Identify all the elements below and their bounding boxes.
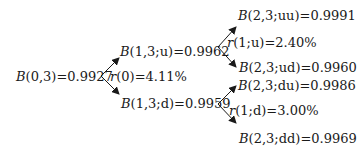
node-symbol: B: [121, 96, 131, 111]
node-symbol: B: [239, 131, 249, 146]
root-node: B(0,3)=0.9927: [16, 69, 113, 84]
node-args: (2,3;uu): [248, 8, 300, 23]
node-args: (0,3): [26, 69, 57, 84]
node-2-du: B(2,3;du)=0.9986: [238, 78, 356, 93]
node-args: (2,3;ud): [249, 60, 301, 75]
rate-args: (1;u): [233, 35, 264, 50]
rate-value: =4.11%: [135, 69, 187, 84]
node-value: =0.9960: [300, 60, 356, 75]
node-2-ud: B(2,3;ud)=0.9960: [239, 60, 357, 75]
node-1-up: B(1,3;u)=0.9962: [120, 44, 230, 59]
node-1-down: B(1,3;d)=0.9959: [121, 96, 230, 111]
node-args: (2,3;du): [248, 78, 300, 93]
node-value: =0.9927: [56, 69, 112, 84]
node-value: =0.9991: [300, 8, 356, 23]
node-symbol: B: [238, 78, 248, 93]
node-2-dd: B(2,3;dd)=0.9969: [239, 131, 357, 146]
node-symbol: B: [120, 44, 130, 59]
node-value: =0.9969: [300, 131, 356, 146]
node-symbol: B: [239, 60, 249, 75]
node-args: (2,3;dd): [249, 131, 301, 146]
rate-0-label: r(0)=4.11%: [110, 69, 187, 84]
rate-value: =3.00%: [266, 103, 318, 118]
node-args: (1,3;d): [131, 96, 175, 111]
rate-value: =2.40%: [264, 35, 316, 50]
rate-1u-label: r(1;u)=2.40%: [227, 35, 317, 50]
node-args: (1,3;u): [130, 44, 174, 59]
node-2-uu: B(2,3;uu)=0.9991: [238, 8, 356, 23]
node-symbol: B: [238, 8, 248, 23]
node-value: =0.9959: [174, 96, 230, 111]
node-value: =0.9986: [299, 78, 355, 93]
rate-1d-label: r(1;d)=3.00%: [229, 103, 319, 118]
node-value: =0.9962: [173, 44, 229, 59]
rate-args: (0): [116, 69, 134, 84]
rate-args: (1;d): [235, 103, 266, 118]
node-symbol: B: [16, 69, 26, 84]
